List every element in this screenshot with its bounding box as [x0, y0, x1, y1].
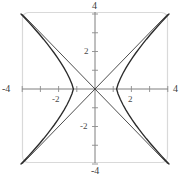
axis-label-top: 4 — [92, 1, 97, 11]
figure-canvas: 4 -4 -4 4 -2 2 2 -2 — [0, 0, 187, 178]
y-tick-label-negative-2: -2 — [80, 122, 88, 131]
axes-group — [22, 12, 168, 163]
axis-label-bottom: -4 — [91, 166, 99, 176]
y-tick-label-positive-2: 2 — [84, 47, 89, 56]
x-tick-label-negative-2: -2 — [52, 95, 60, 104]
hyperbola-plot — [0, 0, 187, 178]
axis-label-right: 4 — [173, 84, 178, 94]
x-tick-label-positive-2: 2 — [128, 95, 133, 104]
axis-label-left: -4 — [2, 84, 10, 94]
